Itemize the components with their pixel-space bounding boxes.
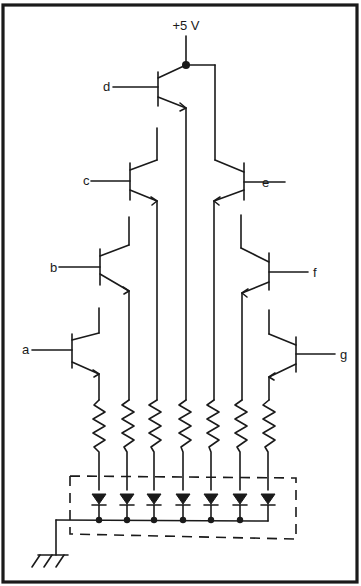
led-g: [261, 494, 275, 521]
input-label-a: a: [22, 342, 30, 357]
led-c: [147, 494, 161, 520]
led-e: [204, 494, 218, 520]
transistor-b: b: [50, 217, 129, 400]
led-f: [233, 494, 247, 520]
resistor-array: [93, 400, 275, 490]
cathode-bus: [56, 520, 268, 521]
transistor-e: e: [214, 160, 285, 400]
input-label-b: b: [50, 260, 57, 275]
led-d: [176, 494, 190, 520]
circuit-diagram: +5 V d c e b: [0, 0, 361, 586]
resistor-f: [235, 400, 247, 490]
input-label-c: c: [83, 173, 90, 188]
led-a: [92, 494, 106, 520]
transistor-g: g: [269, 310, 347, 400]
resistor-g: [263, 400, 275, 490]
led-b: [120, 494, 134, 520]
supply-label: +5 V: [172, 18, 199, 33]
input-label-g: g: [340, 347, 347, 362]
transistor-d: d: [103, 65, 186, 400]
transistor-c: c: [83, 128, 157, 400]
input-label-f: f: [313, 265, 317, 280]
transistor-a: a: [22, 308, 99, 400]
input-label-d: d: [103, 79, 110, 94]
ground-symbol: [32, 520, 68, 567]
